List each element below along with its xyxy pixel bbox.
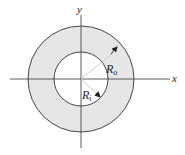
annulus-diagram: y x Ro Ri [0, 0, 185, 155]
y-axis-label: y [76, 3, 82, 15]
x-axis-label: x [171, 72, 177, 84]
